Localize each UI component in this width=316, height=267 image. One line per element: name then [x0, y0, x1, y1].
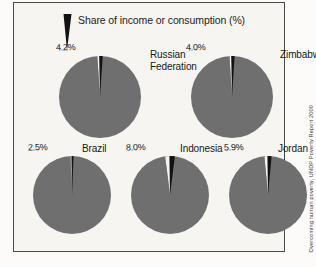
pie-chart-indonesia[interactable]: 8.0% Indonesia — [130, 155, 210, 235]
pie-value-label: 5.9% — [224, 142, 244, 153]
pie-row-bottom: 2.5% Brazil 8.0% Indonesia — [32, 155, 308, 235]
country-label-line-1: Brazil — [82, 143, 106, 155]
country-label-line-1: Jordan — [278, 143, 308, 155]
country-label-line-1: Indonesia — [180, 143, 222, 155]
pie-country-label: Zimbabwe — [280, 49, 316, 61]
pie-country-label: Jordan — [278, 143, 308, 155]
pie-chart-jordan[interactable]: 5.9% Jordan — [228, 155, 308, 235]
pie-country-label: Indonesia — [180, 143, 222, 155]
pie-value-label: 2.5% — [28, 142, 48, 153]
pie-country-label: Brazil — [82, 143, 106, 155]
pie-graphic — [32, 155, 112, 235]
pie-graphic — [130, 155, 210, 235]
chart-frame: Share of income or consumption (%) 4.2% … — [13, 2, 285, 252]
pie-chart-russian-federation[interactable]: 4.2% Russian Federation — [58, 55, 142, 139]
source-credit: Overcoming human poverty, UNDP Poverty R… — [308, 105, 314, 253]
pie-graphic — [190, 55, 274, 139]
pie-graphic — [228, 155, 308, 235]
pie-chart-zimbabwe[interactable]: 4.0% Zimbabwe — [190, 55, 274, 139]
pie-graphic — [58, 55, 142, 139]
pie-value-label: 8.0% — [126, 142, 146, 153]
page-title: Share of income or consumption (%) — [78, 13, 245, 26]
country-label-line-1: Zimbabwe — [280, 49, 316, 61]
infographic-page: Share of income or consumption (%) 4.2% … — [0, 0, 316, 267]
pie-chart-brazil[interactable]: 2.5% Brazil — [32, 155, 112, 235]
pie-row-top: 4.2% Russian Federation 4.0% Zimbabwe — [58, 55, 274, 139]
pie-value-label: 4.2% — [56, 42, 76, 53]
pie-value-label: 4.0% — [186, 42, 206, 53]
chart-title-block: Share of income or consumption (%) — [63, 13, 245, 50]
